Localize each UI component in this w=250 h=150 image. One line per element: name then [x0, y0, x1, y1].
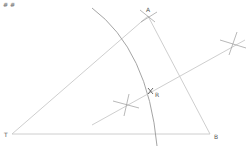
label-r: R	[155, 91, 159, 98]
construction-arc	[92, 8, 157, 146]
perpendicular-bisector	[92, 40, 245, 125]
label-t: T	[3, 131, 8, 138]
cross-mark-lower	[113, 94, 139, 116]
geometry-diagram: # # T B A R	[0, 0, 250, 150]
label-a: A	[146, 6, 151, 13]
segment-ta	[12, 16, 148, 134]
label-b: B	[214, 133, 218, 140]
corner-marks: # #	[3, 1, 15, 8]
point-r-marker	[148, 88, 153, 94]
segment-ab	[148, 16, 210, 134]
